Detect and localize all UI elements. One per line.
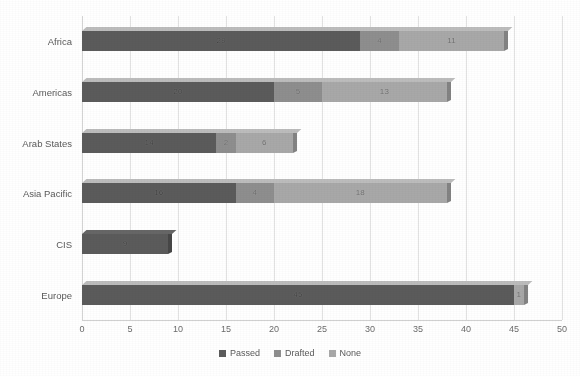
bar-segment-drafted[interactable]: 4	[236, 183, 274, 203]
plot-area: 29411205131426164189451	[82, 16, 562, 320]
x-tick-label: 25	[317, 324, 327, 334]
bar-value-label: 2	[224, 139, 229, 147]
gridline-50	[562, 16, 563, 320]
x-axis-tick-labels: 05101520253035404550	[82, 320, 562, 340]
bar-value-label: 20	[173, 88, 182, 96]
bar-row: 1426	[82, 131, 562, 155]
category-label-europe: Europe	[41, 289, 72, 300]
bar-row: 9	[82, 232, 562, 256]
legend-item-drafted[interactable]: Drafted	[274, 348, 315, 358]
bar-value-label: 13	[380, 88, 389, 96]
stacked-bar[interactable]: 20513	[82, 82, 447, 102]
bar-cap-top	[82, 281, 532, 285]
bar-value-label: 4	[377, 37, 382, 45]
stacked-bar[interactable]: 1426	[82, 133, 293, 153]
legend-swatch-icon	[329, 350, 336, 357]
x-tick-label: 45	[509, 324, 519, 334]
category-label-africa: Africa	[48, 36, 72, 47]
legend-label: Drafted	[285, 348, 315, 358]
bar-value-label: 9	[123, 240, 128, 248]
x-tick-label: 0	[79, 324, 84, 334]
legend-swatch-icon	[219, 350, 226, 357]
category-label-arab-states: Arab States	[22, 137, 72, 148]
x-tick-label: 50	[557, 324, 567, 334]
bar-value-label: 16	[154, 189, 163, 197]
x-tick-label: 35	[413, 324, 423, 334]
bar-value-label: 4	[252, 189, 257, 197]
bar-segment-none[interactable]: 18	[274, 183, 447, 203]
stacked-bar[interactable]: 451	[82, 285, 524, 305]
bar-rows: 29411205131426164189451	[82, 16, 562, 320]
stacked-bar[interactable]: 9	[82, 234, 168, 254]
bar-segment-passed[interactable]: 9	[82, 234, 168, 254]
bar-segment-passed[interactable]: 29	[82, 31, 360, 51]
bar-value-label: 1	[516, 291, 521, 299]
bar-value-label: 45	[293, 291, 302, 299]
bar-value-label: 11	[447, 37, 456, 45]
bar-segment-drafted[interactable]: 5	[274, 82, 322, 102]
legend-item-none[interactable]: None	[329, 348, 362, 358]
bar-row: 29411	[82, 29, 562, 53]
bar-cap-side	[447, 80, 451, 102]
bar-cap-top	[82, 78, 455, 82]
bar-value-label: 5	[296, 88, 301, 96]
x-tick-label: 10	[173, 324, 183, 334]
bar-segment-passed[interactable]: 14	[82, 133, 216, 153]
bar-row: 451	[82, 283, 562, 307]
x-tick-label: 20	[269, 324, 279, 334]
category-label-americas: Americas	[32, 87, 72, 98]
bar-segment-drafted[interactable]: 2	[216, 133, 235, 153]
y-axis-category-labels: AfricaAmericasArab StatesAsia PacificCIS…	[0, 16, 78, 320]
bar-value-label: 6	[262, 139, 267, 147]
bar-cap-top	[82, 230, 177, 234]
category-label-asia-pacific: Asia Pacific	[23, 188, 72, 199]
bar-segment-passed[interactable]: 20	[82, 82, 274, 102]
bar-segment-none[interactable]: 1	[514, 285, 524, 305]
bar-value-label: 18	[356, 189, 365, 197]
bar-chart: AfricaAmericasArab StatesAsia PacificCIS…	[0, 0, 580, 376]
legend-swatch-icon	[274, 350, 281, 357]
bar-segment-drafted[interactable]: 4	[360, 31, 398, 51]
bar-cap-side	[293, 131, 297, 153]
bar-value-label: 29	[217, 37, 226, 45]
legend-label: None	[340, 348, 362, 358]
bar-segment-none[interactable]: 13	[322, 82, 447, 102]
bar-segment-none[interactable]: 6	[236, 133, 294, 153]
bar-cap-top	[82, 129, 302, 133]
bar-cap-side	[504, 29, 508, 51]
bar-value-label: 14	[145, 139, 154, 147]
bar-segment-passed[interactable]: 16	[82, 183, 236, 203]
bar-segment-passed[interactable]: 45	[82, 285, 514, 305]
chart-legend: PassedDraftedNone	[0, 348, 580, 358]
x-tick-label: 40	[461, 324, 471, 334]
stacked-bar[interactable]: 29411	[82, 31, 504, 51]
legend-item-passed[interactable]: Passed	[219, 348, 260, 358]
bar-cap-side	[447, 181, 451, 203]
bar-segment-none[interactable]: 11	[399, 31, 505, 51]
legend-label: Passed	[230, 348, 260, 358]
bar-row: 16418	[82, 181, 562, 205]
category-label-cis: CIS	[56, 239, 72, 250]
x-tick-label: 5	[127, 324, 132, 334]
stacked-bar[interactable]: 16418	[82, 183, 447, 203]
bar-cap-side	[524, 283, 528, 305]
bar-cap-side	[168, 232, 172, 254]
bar-cap-top	[82, 27, 513, 31]
x-tick-label: 15	[221, 324, 231, 334]
x-tick-label: 30	[365, 324, 375, 334]
bar-row: 20513	[82, 80, 562, 104]
bar-cap-top	[82, 179, 455, 183]
